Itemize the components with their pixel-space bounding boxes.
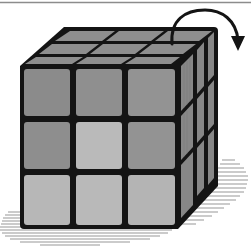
front-sticker-r3c2 (76, 175, 122, 225)
front-sticker-r2c3 (128, 122, 175, 169)
front-sticker-r2c1 (24, 122, 70, 169)
front-sticker-r3c3 (128, 175, 175, 225)
front-sticker-r1c2 (76, 69, 122, 116)
front-sticker-r3c1 (24, 175, 70, 225)
front-face (24, 69, 175, 225)
rubiks-cube-diagram (0, 0, 251, 248)
front-sticker-r2c2 (76, 122, 122, 169)
front-sticker-r1c1 (24, 69, 70, 116)
front-sticker-r1c3 (128, 69, 175, 116)
